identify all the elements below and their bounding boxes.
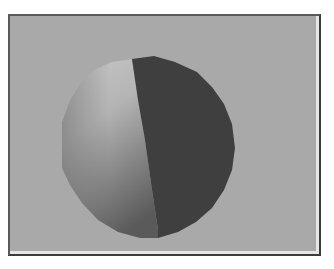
page [0, 0, 334, 269]
render-viewport[interactable] [8, 14, 321, 256]
sphere-render [10, 16, 319, 254]
